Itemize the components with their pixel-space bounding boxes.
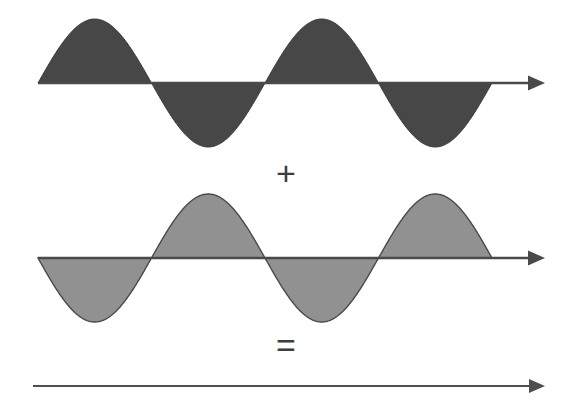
equals-operator: = — [276, 326, 296, 364]
figure-canvas: + = — [0, 0, 573, 411]
interference-figure: + = — [0, 0, 573, 411]
plus-operator: + — [276, 154, 296, 192]
